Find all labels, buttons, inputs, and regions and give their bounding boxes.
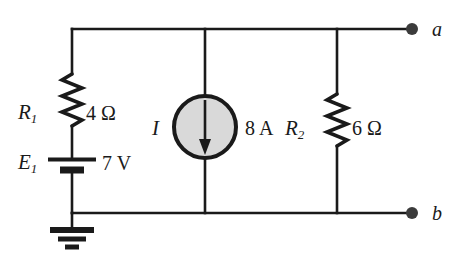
- label-e1-value: 7 V: [102, 153, 131, 173]
- label-r1: R1: [18, 102, 37, 125]
- label-e1-subscript: 1: [31, 161, 38, 176]
- label-terminal-a: a: [432, 19, 442, 39]
- label-r2-subscript: 2: [298, 127, 305, 142]
- label-terminal-b: b: [432, 203, 442, 223]
- terminal-dot-b: [406, 207, 418, 219]
- ground-symbol: [50, 230, 94, 247]
- label-r2-value: 6 Ω: [352, 118, 382, 138]
- schematic-drawing: [0, 0, 468, 268]
- battery-e1-symbol: [48, 160, 96, 171]
- circuit-diagram-canvas: R1 4 Ω E1 7 V I 8 A R2 6 Ω a b: [0, 0, 468, 268]
- label-current-source: I: [152, 118, 159, 139]
- label-e1: E1: [18, 152, 37, 175]
- label-r1-value: 4 Ω: [86, 103, 116, 123]
- label-r1-subscript: 1: [31, 111, 38, 126]
- terminal-dot-a: [406, 23, 418, 35]
- label-r2: R2: [285, 118, 304, 141]
- resistor-r2-zigzag: [327, 94, 347, 146]
- current-source-symbol: [174, 96, 236, 158]
- label-current-source-value: 8 A: [245, 118, 273, 138]
- resistor-r1-zigzag: [62, 74, 82, 126]
